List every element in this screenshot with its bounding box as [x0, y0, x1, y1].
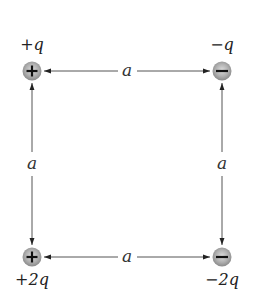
dimension-label-top: a	[122, 60, 132, 80]
charge-top-left: +q	[20, 35, 44, 81]
charge-label-top-right: −q	[210, 35, 234, 54]
charge-label-top-left: +q	[20, 35, 44, 54]
dimension-right: a	[217, 83, 227, 245]
charge-top-right: −q	[210, 35, 234, 81]
dimension-left: a	[27, 83, 37, 245]
charge-label-bottom-left: +2q	[15, 270, 49, 289]
charge-bottom-left: +2q	[15, 248, 49, 290]
dimension-label-bottom: a	[122, 246, 132, 266]
dimension-bottom: a	[44, 246, 210, 266]
dimension-label-right: a	[217, 153, 227, 173]
charge-square-diagram: a a a a +q −q +2q −2q	[0, 0, 255, 308]
charge-bottom-right: −2q	[205, 248, 239, 290]
dimension-top: a	[44, 60, 210, 80]
charge-label-bottom-right: −2q	[205, 270, 239, 289]
dimension-label-left: a	[27, 153, 37, 173]
